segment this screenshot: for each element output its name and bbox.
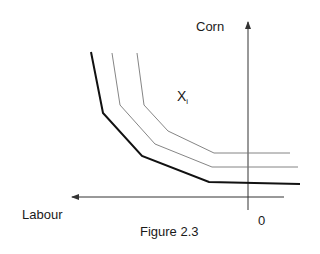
region-label-subscript: i [186,97,188,106]
origin-label: 0 [258,214,265,227]
region-label-main: X [177,88,186,104]
region-label: Xi [177,89,188,106]
middle-isoquant-curve [112,53,298,167]
x-axis-label: Labour [22,208,62,221]
outer-isoquant-curve [91,52,300,184]
y-axis-label: Corn [196,20,224,33]
inner-isoquant-curve [137,53,290,153]
figure-caption: Figure 2.3 [140,225,199,238]
